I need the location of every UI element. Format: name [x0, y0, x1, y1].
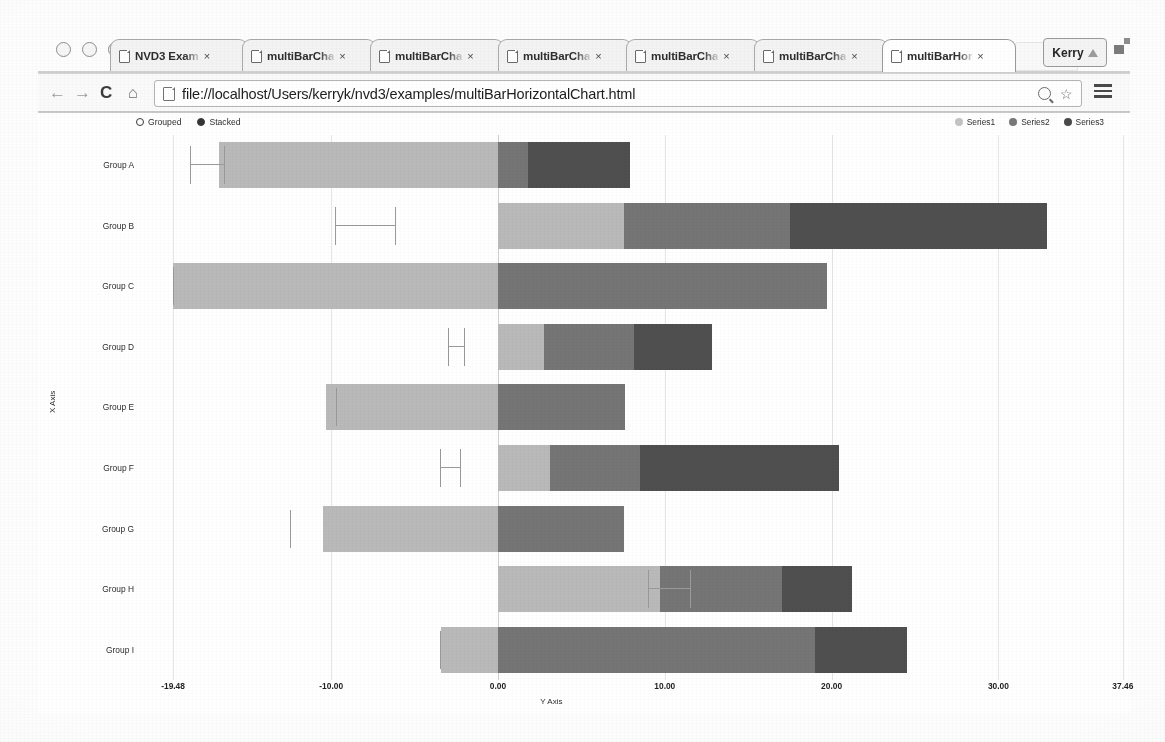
page-icon [635, 50, 646, 63]
bar-segment[interactable] [441, 627, 498, 673]
chart-controls: Grouped Stacked [136, 117, 241, 127]
error-whisker-low [335, 207, 336, 245]
tab-close-icon[interactable]: × [467, 51, 473, 62]
error-stem [440, 467, 459, 468]
page-viewport: Grouped Stacked Series1 Series2 Series3 … [38, 113, 1130, 713]
bar-segment[interactable] [323, 506, 498, 552]
radio-grouped-icon[interactable] [136, 118, 144, 126]
legend-item-series2[interactable]: Series2 [1009, 117, 1049, 127]
tab-multibarchart-4[interactable]: multiBarCha × [626, 39, 760, 72]
url-text: file://localhost/Users/kerryk/nvd3/examp… [182, 86, 635, 102]
menu-bar-1 [1094, 84, 1112, 87]
close-window-button[interactable] [56, 42, 71, 57]
tab-label: multiBarHor [907, 50, 972, 62]
legend-item-series1[interactable]: Series1 [955, 117, 995, 127]
bar-segment[interactable] [660, 566, 782, 612]
omnibox-actions: ☆ [1038, 87, 1073, 100]
bar-segment[interactable] [498, 142, 528, 188]
error-whisker-low [448, 328, 449, 366]
chart-legend: Series1 Series2 Series3 [955, 117, 1104, 127]
x-axis-title: Y Axis [540, 697, 562, 706]
tab-close-icon[interactable]: × [851, 51, 857, 62]
tab-nvd3-examples[interactable]: NVD3 Exam × [110, 39, 248, 72]
bookmark-star-icon[interactable]: ☆ [1060, 88, 1073, 100]
minimize-window-button[interactable] [82, 42, 97, 57]
profile-button[interactable]: Kerry [1043, 38, 1107, 67]
bar-segment[interactable] [326, 384, 498, 430]
page-icon [119, 50, 130, 63]
bar-segment[interactable] [528, 142, 630, 188]
tab-label: multiBarCha [523, 50, 590, 62]
error-whisker-high [440, 631, 441, 669]
bar-segment[interactable] [782, 566, 852, 612]
zoom-icon[interactable] [1038, 87, 1051, 100]
bar-segment[interactable] [498, 506, 624, 552]
error-stem [190, 164, 223, 165]
tab-close-icon[interactable]: × [977, 51, 983, 62]
chart-row: Group A [38, 135, 1130, 196]
bar-segment[interactable] [498, 627, 815, 673]
tab-close-icon[interactable]: × [723, 51, 729, 62]
bar-segment[interactable] [550, 445, 640, 491]
bar-segment[interactable] [498, 324, 544, 370]
bar-segment[interactable] [815, 627, 907, 673]
legend-swatch-icon [1064, 118, 1072, 126]
bar-segment[interactable] [544, 324, 634, 370]
axis-tick-label: -19.48 [161, 681, 185, 691]
tab-multibarhorizontalchart[interactable]: multiBarHor × [882, 39, 1016, 72]
bar-segment[interactable] [498, 384, 625, 430]
chart-row: Group I [38, 619, 1130, 680]
tab-close-icon[interactable]: × [204, 51, 210, 62]
category-label: Group H [64, 584, 134, 594]
error-stem [448, 346, 464, 347]
page-info-icon[interactable] [163, 87, 175, 101]
bar-segment[interactable] [498, 203, 624, 249]
radio-stacked-icon[interactable] [197, 118, 205, 126]
chart-row: Group C [38, 256, 1130, 317]
tab-close-icon[interactable]: × [595, 51, 601, 62]
bar-segment[interactable] [219, 142, 498, 188]
tab-multibarchart-2[interactable]: multiBarCha × [370, 39, 504, 72]
hamburger-menu-icon[interactable] [1094, 84, 1112, 99]
home-icon[interactable]: ⌂ [128, 83, 138, 103]
back-icon[interactable]: ← [49, 83, 66, 103]
bar-segment[interactable] [790, 203, 1047, 249]
legend-swatch-icon [955, 118, 963, 126]
bar-segment[interactable] [173, 263, 498, 309]
legend-label: Series3 [1076, 117, 1104, 127]
chart-row: Group B [38, 196, 1130, 257]
tab-multibarchart-5[interactable]: multiBarCha × [754, 39, 888, 72]
error-whisker-high [173, 267, 174, 305]
reload-icon[interactable]: C [100, 83, 112, 103]
category-label: Group E [64, 402, 134, 412]
axis-tick-label: 0.00 [490, 681, 506, 691]
chart-row: Group E [38, 377, 1130, 438]
profile-name: Kerry [1052, 46, 1083, 60]
control-stacked[interactable]: Stacked [197, 117, 240, 127]
forward-icon[interactable]: → [74, 83, 91, 103]
bar-segment[interactable] [498, 263, 827, 309]
category-label: Group I [64, 645, 134, 655]
page-icon [379, 50, 390, 63]
error-whisker-high [690, 570, 691, 608]
control-grouped-label: Grouped [148, 117, 181, 127]
tab-close-icon[interactable]: × [339, 51, 345, 62]
tab-multibarchart-1[interactable]: multiBarCha × [242, 39, 376, 72]
tab-multibarchart-3[interactable]: multiBarCha × [498, 39, 632, 72]
window-restore-icon[interactable] [1114, 38, 1130, 54]
control-grouped[interactable]: Grouped [136, 117, 181, 127]
bar-segment[interactable] [498, 445, 550, 491]
chart-row: Group D [38, 317, 1130, 378]
bar-segment[interactable] [624, 203, 790, 249]
bar-segment[interactable] [634, 324, 712, 370]
address-bar[interactable]: file://localhost/Users/kerryk/nvd3/examp… [154, 80, 1082, 107]
x-axis: -19.48-10.000.0010.0020.0030.0037.46Y Ax… [38, 681, 1130, 711]
axis-tick-label: -10.00 [319, 681, 343, 691]
bar-segment[interactable] [498, 566, 660, 612]
plot-area: Group AGroup BGroup CGroup DGroup EGroup… [38, 135, 1130, 680]
axis-tick-label: 30.00 [988, 681, 1009, 691]
bar-segment[interactable] [640, 445, 839, 491]
legend-item-series3[interactable]: Series3 [1064, 117, 1104, 127]
error-whisker-low [440, 449, 441, 487]
error-whisker-low [648, 570, 649, 608]
